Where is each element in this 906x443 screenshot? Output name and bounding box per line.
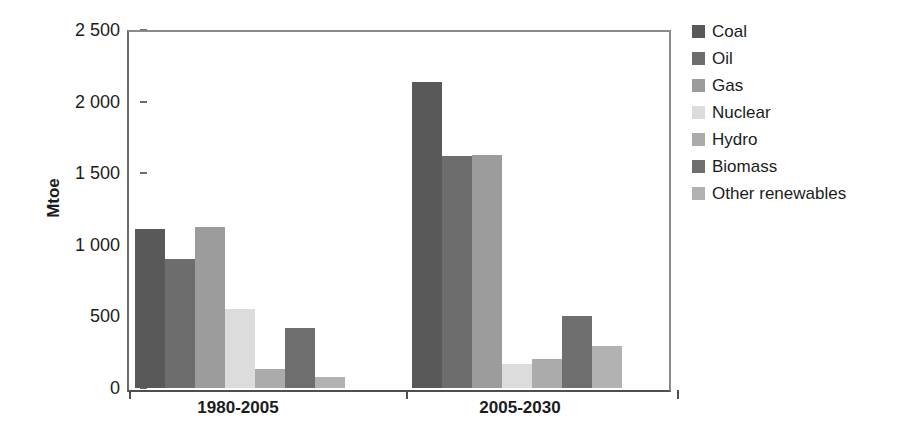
legend-swatch-icon <box>692 52 705 65</box>
legend-item[interactable]: Other renewables <box>692 180 902 207</box>
bar-group <box>412 30 622 388</box>
x-axis-tick-mark <box>129 390 131 399</box>
bar-biomass[interactable] <box>285 328 315 388</box>
bar-nuclear[interactable] <box>502 364 532 388</box>
legend-item[interactable]: Biomass <box>692 153 902 180</box>
bar-oil[interactable] <box>442 156 472 388</box>
y-axis-tick-label: 2 500 <box>30 20 120 41</box>
y-axis-tick-label: 1 500 <box>30 163 120 184</box>
y-axis-tick-label: 500 <box>30 306 120 327</box>
legend-item[interactable]: Hydro <box>692 126 902 153</box>
legend-swatch-icon <box>692 133 705 146</box>
legend-item-label: Nuclear <box>712 104 771 121</box>
x-axis-tick-label: 2005-2030 <box>479 398 560 418</box>
bar-other-renewables[interactable] <box>315 377 345 388</box>
chart-legend: CoalOilGasNuclearHydroBiomassOther renew… <box>692 18 902 207</box>
x-axis-tick-mark <box>677 390 679 399</box>
y-axis-tick-label: 0 <box>30 378 120 399</box>
x-axis-tick-mark <box>406 390 408 399</box>
legend-item[interactable]: Coal <box>692 18 902 45</box>
legend-item-label: Hydro <box>712 131 757 148</box>
x-axis-tick-label: 1980-2005 <box>197 398 278 418</box>
bar-hydro[interactable] <box>532 359 562 388</box>
bar-gas[interactable] <box>195 227 225 388</box>
legend-item[interactable]: Nuclear <box>692 99 902 126</box>
legend-swatch-icon <box>692 25 705 38</box>
legend-item-label: Oil <box>712 50 733 67</box>
bar-hydro[interactable] <box>255 369 285 388</box>
legend-item-label: Gas <box>712 77 743 94</box>
y-axis-tick-label: 1 000 <box>30 234 120 255</box>
legend-item-label: Other renewables <box>712 185 846 202</box>
bar-group <box>135 30 345 388</box>
bar-nuclear[interactable] <box>225 309 255 388</box>
bar-series-container <box>129 30 667 388</box>
legend-swatch-icon <box>692 106 705 119</box>
bar-chart-figure: Mtoe 2 5002 0001 5001 0005000 1980-20052… <box>0 0 906 443</box>
legend-item[interactable]: Gas <box>692 72 902 99</box>
bar-gas[interactable] <box>472 155 502 388</box>
bar-other-renewables[interactable] <box>592 346 622 388</box>
legend-item[interactable]: Oil <box>692 45 902 72</box>
legend-swatch-icon <box>692 187 705 200</box>
y-axis-tick-label: 2 000 <box>30 91 120 112</box>
legend-swatch-icon <box>692 160 705 173</box>
bar-biomass[interactable] <box>562 316 592 388</box>
bar-coal[interactable] <box>135 229 165 388</box>
bar-oil[interactable] <box>165 259 195 388</box>
legend-item-label: Coal <box>712 23 747 40</box>
legend-item-label: Biomass <box>712 158 777 175</box>
legend-swatch-icon <box>692 79 705 92</box>
bar-coal[interactable] <box>412 82 442 388</box>
y-axis-tick-labels: 2 5002 0001 5001 0005000 <box>20 0 120 443</box>
